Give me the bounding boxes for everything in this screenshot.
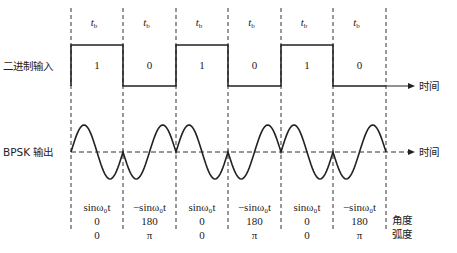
time-label-bpsk: 时间 [419,146,439,158]
bit-value: 0 [147,59,153,71]
signal-expression: sinω₀t [84,201,111,213]
bpsk-diagram: 二进制输入 时间 BPSK 输出 时间 tb1sinω₀t00tb0−sinω₀… [0,0,457,253]
angle-degrees: 180 [246,215,263,227]
radian-row-label: 弧度 [392,228,413,240]
bit-value: 1 [199,59,205,71]
angle-radians: π [252,229,258,241]
angle-degrees: 0 [94,215,100,227]
bit-value: 0 [252,59,258,71]
bit-period-label: tb [143,16,150,30]
bit-period-label: tb [196,16,203,30]
signal-expression: −sinω₀t [133,201,166,213]
binary-input-label: 二进制输入 [3,60,54,72]
bit-period-label: tb [353,16,360,30]
time-label-binary: 时间 [419,80,439,92]
bpsk-output-label: BPSK 输出 [3,146,53,158]
binary-input-waveform [71,45,386,86]
angle-radians: 0 [94,229,100,241]
angle-degrees: 180 [351,215,368,227]
arrow-icon [408,83,415,89]
angle-radians: π [357,229,363,241]
bit-value: 1 [304,59,310,71]
angle-row-label: 角度 [392,214,413,226]
signal-expression: −sinω₀t [343,201,376,213]
angle-radians: 0 [199,229,205,241]
signal-expression: −sinω₀t [238,201,271,213]
arrow-icon [408,149,415,155]
angle-degrees: 0 [199,215,205,227]
angle-degrees: 180 [141,215,158,227]
bit-value: 0 [357,59,363,71]
bit-period-label: tb [91,16,98,30]
bit-value: 1 [94,59,100,71]
bit-period-label: tb [301,16,308,30]
bit-boundary-lines [71,8,386,232]
angle-degrees: 0 [304,215,310,227]
bit-period-label: tb [248,16,255,30]
angle-radians: 0 [304,229,310,241]
angle-radians: π [147,229,153,241]
signal-expression: sinω₀t [189,201,216,213]
signal-expression: sinω₀t [294,201,321,213]
